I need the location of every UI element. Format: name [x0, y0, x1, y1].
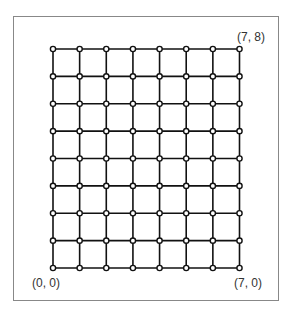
grid-node	[50, 46, 55, 51]
grid-node	[210, 183, 215, 188]
grid-node	[157, 183, 162, 188]
grid-node	[130, 156, 135, 161]
grid-node	[157, 265, 162, 270]
grid-node	[77, 74, 82, 79]
grid-node	[130, 74, 135, 79]
grid-node	[184, 74, 189, 79]
grid-node	[210, 46, 215, 51]
grid-node	[157, 74, 162, 79]
grid-node	[104, 156, 109, 161]
grid-node	[104, 101, 109, 106]
grid-node	[104, 211, 109, 216]
grid-node	[210, 211, 215, 216]
grid-node	[237, 129, 242, 134]
grid-node	[77, 183, 82, 188]
label-top-right: (7, 8)	[237, 30, 265, 44]
grid-node	[210, 265, 215, 270]
grid-node	[237, 101, 242, 106]
grid-node	[210, 129, 215, 134]
grid-node	[130, 129, 135, 134]
grid-node	[157, 238, 162, 243]
grid-node	[130, 211, 135, 216]
grid-node	[157, 101, 162, 106]
grid-node	[157, 46, 162, 51]
grid-node	[50, 211, 55, 216]
grid-node	[237, 156, 242, 161]
grid-node	[130, 183, 135, 188]
label-bottom-left: (0, 0)	[32, 276, 60, 290]
grid-node	[210, 238, 215, 243]
grid-graph	[0, 0, 293, 316]
grid-node	[237, 183, 242, 188]
grid-node	[104, 265, 109, 270]
grid-node	[104, 46, 109, 51]
grid-node	[130, 265, 135, 270]
grid-node	[104, 238, 109, 243]
grid-node	[104, 74, 109, 79]
grid-node	[50, 101, 55, 106]
grid-node	[237, 238, 242, 243]
grid-node	[130, 238, 135, 243]
grid-node	[237, 265, 242, 270]
grid-node	[237, 211, 242, 216]
grid-node	[210, 74, 215, 79]
grid-node	[184, 156, 189, 161]
grid-node	[50, 238, 55, 243]
grid-node	[77, 129, 82, 134]
grid-node	[210, 101, 215, 106]
grid-node	[77, 46, 82, 51]
grid-node	[157, 211, 162, 216]
grid-node	[50, 156, 55, 161]
grid-node	[77, 211, 82, 216]
grid-node	[157, 129, 162, 134]
grid-node	[184, 101, 189, 106]
grid-node	[130, 46, 135, 51]
grid-node	[50, 74, 55, 79]
grid-node	[184, 238, 189, 243]
grid-node	[50, 265, 55, 270]
label-bottom-right: (7, 0)	[234, 276, 262, 290]
grid-node	[210, 156, 215, 161]
grid-node	[77, 156, 82, 161]
grid-node	[130, 101, 135, 106]
grid-node	[184, 183, 189, 188]
grid-node	[237, 46, 242, 51]
grid-node	[157, 156, 162, 161]
grid-node	[184, 46, 189, 51]
grid-node	[184, 211, 189, 216]
grid-node	[77, 265, 82, 270]
grid-node	[77, 238, 82, 243]
grid-node	[104, 183, 109, 188]
grid-node	[50, 129, 55, 134]
grid-node	[104, 129, 109, 134]
grid-node	[50, 183, 55, 188]
grid-node	[184, 265, 189, 270]
grid-node	[77, 101, 82, 106]
grid-node	[184, 129, 189, 134]
grid-node	[237, 74, 242, 79]
